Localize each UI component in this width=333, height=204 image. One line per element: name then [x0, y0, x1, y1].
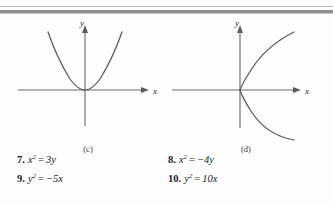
equation-operator: = — [189, 154, 195, 165]
exercise-item-9[interactable]: 9.y2=−5x — [17, 169, 63, 188]
graph-c-svg: x y — [8, 18, 168, 146]
exercise-equation: x2=3y — [28, 154, 56, 165]
graph-d-svg: x y — [166, 18, 326, 146]
exercise-number: 10. — [168, 173, 181, 184]
exercise-equation: y2=−5x — [28, 173, 63, 184]
equation-operator: = — [38, 154, 44, 165]
equation-operator: = — [38, 173, 44, 184]
exercise-equation: x2=−4y — [179, 154, 214, 165]
top-rule-thick — [0, 10, 333, 13]
equation-rhs: −5x — [46, 173, 63, 184]
exercise-item-8[interactable]: 8.x2=−4y — [168, 150, 214, 169]
exercise-number: 9. — [17, 173, 25, 184]
equation-lhs-exponent: 2 — [189, 172, 193, 180]
textbook-page-fragment: x y (c) x y (d) 7.x2=3y 8.x2=−4y — [0, 0, 333, 204]
equation-rhs: 10x — [202, 173, 217, 184]
exercise-number: 7. — [17, 154, 25, 165]
exercise-equation: y2=10x — [184, 173, 217, 184]
top-rule-thin — [0, 6, 333, 7]
x-axis-arrow-d — [293, 87, 301, 93]
equation-rhs: −4y — [197, 154, 214, 165]
exercise-list: 7.x2=3y 8.x2=−4y 9.y2=−5x 10.y2=10x — [0, 150, 333, 204]
equation-lhs-exponent: 2 — [33, 172, 37, 180]
exercise-item-10[interactable]: 10.y2=10x — [168, 169, 217, 188]
figure-panel-d: x y (d) — [166, 18, 326, 146]
x-axis-label-c: x — [152, 86, 157, 96]
figure-panel-c: x y (c) — [8, 18, 168, 146]
equation-lhs-exponent: 2 — [33, 153, 37, 161]
equation-lhs-exponent: 2 — [184, 153, 188, 161]
x-axis-label-d: x — [304, 86, 309, 96]
exercise-number: 8. — [168, 154, 176, 165]
x-axis-arrow-c — [141, 87, 149, 93]
parabola-curve-d — [240, 32, 294, 140]
equation-rhs: 3y — [46, 154, 56, 165]
equation-operator: = — [194, 173, 200, 184]
y-axis-label-d: y — [234, 18, 239, 28]
exercise-row: 9.y2=−5x 10.y2=10x — [0, 169, 333, 188]
exercise-row: 7.x2=3y 8.x2=−4y — [0, 150, 333, 169]
exercise-item-7[interactable]: 7.x2=3y — [17, 150, 56, 169]
y-axis-label-c: y — [79, 18, 84, 28]
